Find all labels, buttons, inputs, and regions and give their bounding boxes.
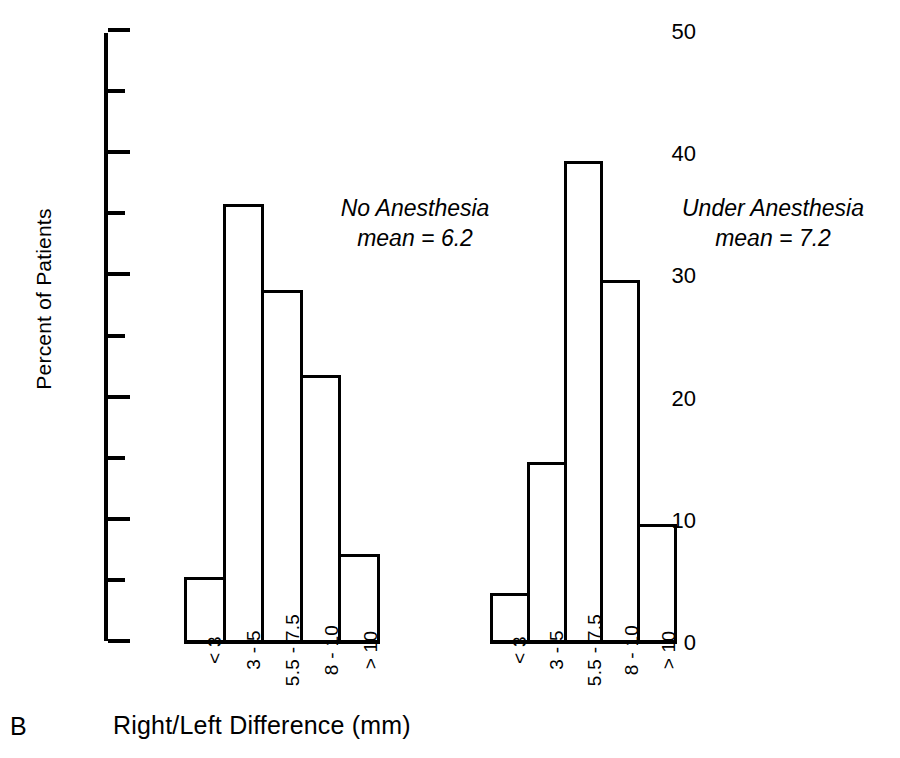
histogram-bar [261, 290, 303, 644]
bar-group-under-anesthesia [490, 33, 677, 644]
y-tick-major [108, 28, 130, 32]
x-tick-label-cell: 3 - 5 [527, 644, 564, 734]
y-tick-label: 0 [636, 630, 696, 656]
y-tick-minor [108, 334, 125, 338]
x-tick-labels-under-anesthesia: < 33 - 55.5 - 7.58 - 10> 10 [490, 644, 677, 734]
histogram-bar [600, 280, 640, 644]
y-tick-major [108, 272, 130, 276]
histogram-bar [300, 375, 342, 644]
y-axis-label: Percent of Patients [32, 169, 56, 429]
histogram-figure: Percent of Patients < 33 - 55.5 - 7.58 -… [0, 0, 900, 758]
panel-letter: B [10, 712, 27, 741]
y-tick-minor [108, 578, 125, 582]
y-tick-major [108, 517, 130, 521]
annotation-no-anesthesia-mean: mean = 6.2 [300, 223, 530, 253]
histogram-under-anesthesia: < 33 - 55.5 - 7.58 - 10> 10 [490, 30, 677, 644]
y-tick-minor [108, 456, 125, 460]
x-axis-title: Right/Left Difference (mm) [113, 711, 411, 740]
y-tick-minor [108, 211, 125, 215]
y-tick-label: 30 [636, 263, 696, 289]
y-tick-major [108, 395, 130, 399]
annotation-no-anesthesia: No Anesthesia mean = 6.2 [300, 193, 530, 254]
y-tick-major [108, 639, 130, 643]
histogram-no-anesthesia: < 33 - 55.5 - 7.58 - 10> 10 [184, 30, 380, 644]
histogram-bar [564, 161, 604, 644]
annotation-under-anesthesia-title: Under Anesthesia [682, 195, 864, 221]
y-tick-minor [108, 89, 125, 93]
x-tick-label: > 10 [360, 631, 382, 670]
y-tick-major [108, 150, 130, 154]
y-tick-label: 50 [636, 19, 696, 45]
bar-group-no-anesthesia [184, 33, 380, 644]
x-tick-label-cell: 8 - 10 [602, 644, 639, 734]
x-tick-label-cell: 5.5 - 7.5 [565, 644, 602, 734]
x-tick-label-cell: > 10 [640, 644, 677, 734]
y-tick-label: 40 [636, 141, 696, 167]
plot-area: < 33 - 55.5 - 7.58 - 10> 10 < 33 - 55.5 … [104, 30, 804, 644]
histogram-bar [223, 204, 265, 644]
annotation-under-anesthesia-mean: mean = 7.2 [648, 223, 898, 253]
histogram-bar [527, 462, 567, 644]
y-tick-label: 20 [636, 386, 696, 412]
x-tick-label-cell: < 3 [490, 644, 527, 734]
histogram-bar [637, 524, 677, 644]
histogram-bar [184, 577, 226, 644]
annotation-no-anesthesia-title: No Anesthesia [341, 195, 490, 221]
annotation-under-anesthesia: Under Anesthesia mean = 7.2 [648, 193, 898, 254]
y-tick-label: 10 [636, 508, 696, 534]
